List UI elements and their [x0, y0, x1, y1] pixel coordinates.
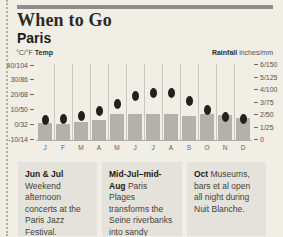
right-axis-tick: 3/75: [254, 99, 274, 106]
guidebook-when-to-go-page: When to Go Paris °C/°F Temp Rainfall inc…: [0, 0, 283, 236]
rainfall-bar: [74, 122, 88, 140]
month-label: J: [36, 144, 54, 151]
right-axis-tick: 2/50: [254, 111, 274, 118]
left-axis-tick: 10/50: [0, 106, 34, 113]
tick-mark: [30, 65, 34, 66]
note-lead: Jun & Jul: [25, 169, 63, 179]
month-separator-line: [162, 64, 163, 140]
right-axis-tick: 4/100: [254, 86, 278, 93]
month-label: S: [180, 144, 198, 151]
month-separator-line: [144, 64, 145, 140]
month-label: F: [54, 144, 72, 151]
rainfall-bar: [164, 114, 178, 140]
tick-mark: [254, 102, 258, 103]
tick-mark: [254, 114, 258, 115]
rainfall-bar: [182, 116, 196, 140]
month-separator-line: [126, 64, 127, 140]
tick-mark: [30, 94, 34, 95]
month-label: A: [90, 144, 108, 151]
temperature-dot: [222, 112, 229, 122]
tick-mark: [254, 127, 258, 128]
month-separator-line: [90, 64, 91, 140]
tick-mark: [30, 124, 34, 125]
right-axis-tick: 5/125: [254, 74, 278, 81]
rainfall-bar: [92, 120, 106, 140]
month-separator-line: [216, 64, 217, 140]
right-axis-tick: 0: [254, 136, 264, 143]
tick-mark: [254, 89, 258, 90]
tick-mark: [30, 109, 34, 110]
temperature-dot: [96, 106, 103, 116]
month-label: M: [72, 144, 90, 151]
month-separator-line: [198, 64, 199, 140]
month-label: N: [216, 144, 234, 151]
temperature-dot: [114, 99, 121, 109]
month-separator-line: [72, 64, 73, 140]
right-axis-tick: 1/25: [254, 124, 274, 131]
seasonal-note: Jun & Jul Week­end afternoon concerts at…: [18, 162, 97, 236]
chart-baseline: [36, 140, 252, 141]
tick-mark: [254, 77, 258, 78]
month-separator-line: [54, 64, 55, 140]
seasonal-note: Mid-Jul–mid-Aug Paris Plages transforms …: [102, 162, 182, 236]
temperature-dot: [150, 88, 157, 98]
month-label: J: [126, 144, 144, 151]
temperature-dot: [204, 105, 211, 115]
rainfall-bar: [110, 114, 124, 140]
left-axis-tick: -10/14: [0, 136, 34, 143]
month-label: M: [108, 144, 126, 151]
rainfall-bar: [146, 114, 160, 140]
month-separator-line: [234, 64, 235, 140]
month-label: A: [162, 144, 180, 151]
left-axis-tick: 30/86: [0, 76, 34, 83]
rainfall-bar: [38, 123, 52, 140]
rainfall-bar: [56, 124, 70, 140]
left-axis-tick: 20/68: [0, 91, 34, 98]
month-separator-line: [108, 64, 109, 140]
left-axis-tick: 40/104: [0, 62, 34, 69]
temperature-dot: [60, 114, 67, 124]
rainfall-bar: [200, 114, 214, 140]
tick-mark: [254, 139, 258, 140]
temperature-dot: [240, 114, 247, 124]
month-label: D: [234, 144, 252, 151]
right-axis-tick: 6/150: [254, 61, 278, 68]
month-label: J: [144, 144, 162, 151]
month-separator-line: [180, 64, 181, 140]
rainfall-bar: [128, 114, 142, 140]
temperature-dot: [168, 88, 175, 98]
seasonal-note: Oct Museums, bars et al open all night d…: [187, 162, 266, 236]
temperature-dot: [78, 111, 85, 121]
tick-mark: [254, 64, 258, 65]
tick-mark: [30, 139, 34, 140]
temperature-dot: [42, 115, 49, 125]
temperature-dot: [186, 96, 193, 106]
climate-chart: 40/10430/8620/6810/500/32-10/146/1505/12…: [0, 0, 283, 160]
note-text: Week­end afternoon concerts at the Paris…: [25, 181, 81, 237]
temperature-dot: [132, 91, 139, 101]
note-lead: Oct: [194, 169, 208, 179]
left-axis-tick: 0/32: [0, 121, 34, 128]
tick-mark: [30, 79, 34, 80]
month-label: O: [198, 144, 216, 151]
seasonal-notes: Jun & Jul Week­end afternoon concerts at…: [0, 162, 283, 236]
